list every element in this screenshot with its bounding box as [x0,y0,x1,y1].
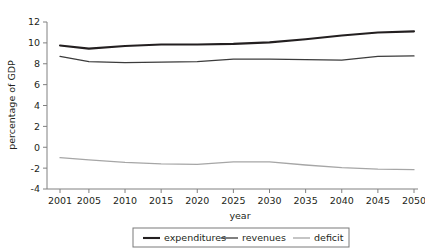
x-tick-label: 2030 [257,195,281,206]
x-tick-label: 2005 [77,195,101,206]
legend-label-deficit: deficit [314,232,344,243]
y-tick-label: 4 [34,100,40,111]
series-line-expenditures [60,31,414,48]
x-axis-ticks [60,189,414,193]
x-tick-label: 2001 [48,195,72,206]
line-chart: 121086420-2-4 20012005201020152020202520… [0,0,425,251]
x-tick-label: 2015 [149,195,173,206]
x-tick-label: 2045 [366,195,390,206]
x-tick-label: 2020 [185,195,209,206]
legend: expendituresrevenuesdeficit [133,228,349,247]
x-tick-label: 2025 [221,195,245,206]
chart-container: 121086420-2-4 20012005201020152020202520… [0,0,425,251]
y-tick-label: 12 [28,16,40,27]
y-tick-label: 2 [34,121,40,132]
series-line-revenues [60,56,414,63]
legend-label-revenues: revenues [242,232,286,243]
y-axis-tick-labels: 121086420-2-4 [28,16,40,194]
x-tick-label: 2010 [113,195,137,206]
y-axis-title: percentage of GDP [6,60,17,150]
x-tick-label: 2040 [330,195,354,206]
legend-label-expenditures: expenditures [164,232,226,243]
y-tick-label: -2 [31,163,40,174]
plot-area: 121086420-2-4 20012005201020152020202520… [28,16,425,206]
x-axis-title: year [229,210,250,221]
y-tick-label: 10 [28,37,40,48]
y-tick-label: -4 [31,183,40,194]
y-axis-ticks [43,22,47,189]
x-tick-label: 2035 [294,195,318,206]
series-lines [60,31,414,169]
legend-items: expendituresrevenuesdeficit [143,232,344,243]
series-line-deficit [60,158,414,170]
x-tick-label: 2050 [402,195,425,206]
y-tick-label: 6 [34,79,40,90]
y-tick-label: 8 [34,58,40,69]
x-axis-tick-labels: 2001200520102015202020252030203520402045… [48,195,425,206]
y-tick-label: 0 [34,142,40,153]
